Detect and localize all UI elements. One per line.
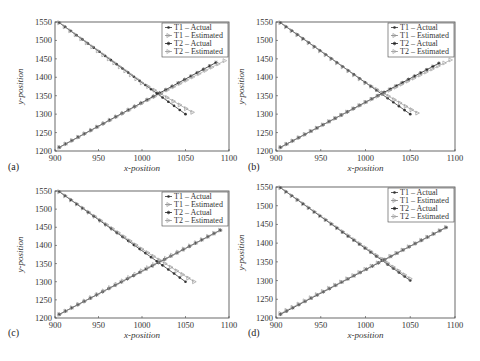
y-tick-label: 1250	[35, 128, 52, 138]
y-tick-label: 1450	[35, 222, 52, 232]
y-tick-label: 1300	[35, 109, 52, 119]
chart-panel-b: 9009501000105011001200125013001350140014…	[236, 17, 463, 173]
x-tick-label: 1100	[447, 320, 464, 330]
x-tick-label: 1100	[221, 153, 238, 163]
legend: T1 – ActualT1 – EstimatedT2 – ActualT2 –…	[162, 23, 228, 57]
x-tick-label: 1000	[134, 320, 151, 330]
legend-entry: T2 – Estimated	[174, 216, 223, 225]
x-axis-label: x-position	[123, 163, 160, 173]
legend-entry: T2 – Estimated	[400, 212, 449, 221]
y-tick-label: 1500	[256, 35, 273, 45]
y-tick-label: 1250	[256, 128, 273, 138]
y-axis-label: y-position	[15, 68, 25, 105]
y-tick-label: 1350	[35, 91, 52, 101]
trajectory-figure: 9009501000105011001200125013001350140014…	[0, 0, 480, 361]
chart-panel-a: 9009501000105011001200125013001350140014…	[8, 17, 237, 173]
y-axis-label: y-position	[236, 68, 246, 105]
chart-panel-d: 9009501000105011001200125013001350140014…	[236, 182, 463, 340]
x-tick-label: 1100	[447, 153, 464, 163]
y-tick-label: 1500	[35, 35, 52, 45]
y-tick-label: 1500	[35, 204, 52, 214]
x-tick-label: 1000	[357, 153, 374, 163]
y-tick-label: 1500	[256, 201, 273, 211]
y-tick-label: 1400	[256, 72, 273, 82]
x-tick-label: 1000	[134, 153, 151, 163]
y-tick-label: 1450	[256, 54, 273, 64]
y-tick-label: 1450	[35, 54, 52, 64]
series-3	[58, 59, 227, 150]
x-tick-label: 1000	[357, 320, 374, 330]
y-tick-label: 1550	[35, 17, 52, 27]
legend: T1 – ActualT1 – EstimatedT2 – ActualT2 –…	[388, 188, 454, 222]
y-axis-label: y-position	[15, 236, 25, 273]
x-tick-label: 950	[92, 320, 105, 330]
y-tick-label: 1350	[256, 257, 273, 267]
y-tick-label: 1200	[256, 146, 273, 156]
y-tick-label: 1550	[256, 17, 273, 27]
y-tick-label: 1200	[35, 313, 52, 323]
legend-entry: T2 – Estimated	[400, 47, 449, 56]
x-axis-label: x-position	[347, 163, 384, 173]
panel-label: (c)	[8, 327, 19, 339]
y-tick-label: 1400	[35, 72, 52, 82]
x-tick-label: 1050	[177, 320, 194, 330]
y-tick-label: 1200	[256, 313, 273, 323]
y-tick-label: 1450	[256, 219, 273, 229]
panel-label: (a)	[8, 161, 19, 173]
y-tick-label: 1200	[35, 146, 52, 156]
y-tick-label: 1350	[35, 259, 52, 269]
y-tick-label: 1550	[35, 186, 52, 196]
series-3	[279, 58, 453, 149]
y-tick-label: 1250	[256, 294, 273, 304]
y-tick-label: 1300	[35, 277, 52, 287]
y-tick-label: 1300	[256, 109, 273, 119]
x-tick-label: 950	[314, 320, 327, 330]
series-2	[58, 61, 218, 149]
y-tick-label: 1250	[35, 295, 52, 305]
legend: T1 – ActualT1 – EstimatedT2 – ActualT2 –…	[388, 23, 454, 57]
x-axis-label: x-position	[123, 330, 160, 340]
x-tick-label: 950	[92, 153, 105, 163]
x-tick-label: 1050	[177, 153, 194, 163]
legend-entry: T2 – Estimated	[174, 47, 223, 56]
x-tick-label: 1100	[221, 320, 238, 330]
y-axis-label: y-position	[236, 234, 246, 271]
panel-label: (d)	[248, 327, 260, 339]
x-tick-label: 950	[314, 153, 327, 163]
x-axis-label: x-position	[347, 330, 384, 340]
y-tick-label: 1400	[256, 238, 273, 248]
y-tick-label: 1300	[256, 276, 273, 286]
y-tick-label: 1400	[35, 240, 52, 250]
panel-label: (b)	[248, 161, 260, 173]
y-tick-label: 1350	[256, 91, 273, 101]
chart-panel-c: 9009501000105011001200125013001350140014…	[8, 186, 237, 340]
legend: T1 – ActualT1 – EstimatedT2 – ActualT2 –…	[162, 192, 228, 226]
x-tick-label: 1050	[402, 153, 419, 163]
y-tick-label: 1550	[256, 182, 273, 192]
x-tick-label: 1050	[402, 320, 419, 330]
